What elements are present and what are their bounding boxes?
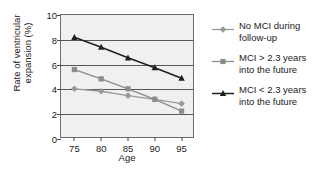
x-axis-title: Age (60, 152, 194, 163)
data-point-triangle (71, 34, 77, 40)
y-axis-title-line1: Rate of ventricular (11, 14, 22, 91)
y-tick-label: 10 (46, 10, 57, 21)
chart-figure: Rate of ventricular expansion (%) 024681… (0, 0, 324, 174)
legend-label-1: MCI > 2.3 yearsinto the future (239, 52, 306, 75)
data-point-square (125, 86, 130, 91)
chart-legend: No MCI duringfollow-upMCI > 2.3 yearsint… (212, 20, 322, 116)
data-point-square (72, 67, 77, 72)
data-point-square (99, 76, 104, 81)
y-axis-title: Rate of ventricular expansion (%) (0, 0, 44, 113)
legend-label-0: No MCI duringfollow-up (239, 20, 300, 43)
legend-label-line2: into the future (239, 96, 306, 108)
data-point-diamond (125, 92, 132, 99)
legend-marker-square-icon (212, 53, 234, 64)
plot-area: 0246810 7580859095 (60, 14, 194, 138)
legend-marker-diamond-icon (212, 21, 234, 32)
legend-item-0[interactable]: No MCI duringfollow-up (212, 20, 322, 43)
legend-item-1[interactable]: MCI > 2.3 yearsinto the future (212, 52, 322, 75)
legend-label-line2: follow-up (239, 32, 300, 44)
data-point-diamond (71, 85, 78, 92)
legend-label-line1: No MCI during (239, 20, 300, 32)
data-point-diamond (178, 100, 185, 107)
legend-marker-triangle-icon (212, 85, 234, 96)
data-point-square (220, 59, 225, 64)
legend-label-line1: MCI > 2.3 years (239, 52, 306, 64)
y-tick-mark (57, 139, 61, 140)
y-axis-title-line2: expansion (%) (22, 23, 33, 84)
legend-label-line2: into the future (239, 64, 306, 76)
data-point-square (179, 109, 184, 114)
legend-label-line1: MCI < 2.3 years (239, 84, 306, 96)
legend-item-2[interactable]: MCI < 2.3 yearsinto the future (212, 84, 322, 107)
data-point-diamond (98, 88, 105, 95)
legend-label-2: MCI < 2.3 yearsinto the future (239, 84, 306, 107)
data-point-square (152, 97, 157, 102)
data-point-diamond (220, 26, 227, 33)
data-series-layer (61, 15, 195, 139)
